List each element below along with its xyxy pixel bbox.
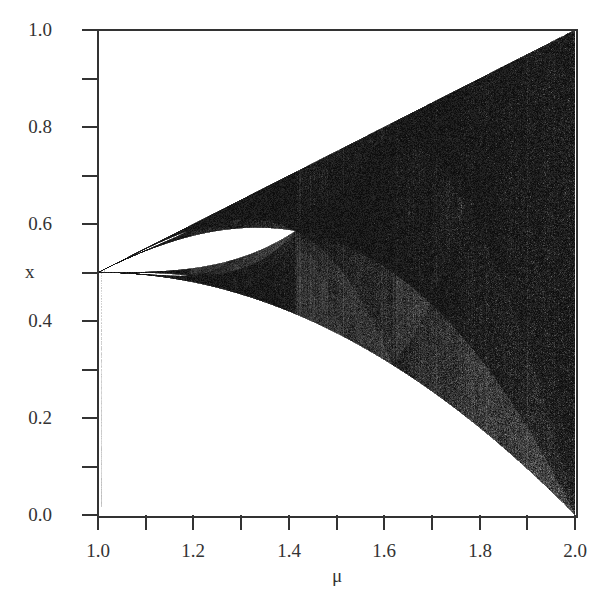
x-tick bbox=[240, 515, 242, 530]
y-tick bbox=[82, 466, 98, 468]
x-tick bbox=[431, 515, 433, 530]
y-tick-label: 0.4 bbox=[2, 311, 52, 331]
y-tick bbox=[82, 29, 98, 31]
y-tick-label: 0.2 bbox=[2, 408, 52, 428]
x-tick bbox=[479, 515, 481, 530]
y-tick bbox=[82, 514, 98, 516]
y-tick-label: 0.6 bbox=[2, 214, 52, 234]
x-tick bbox=[192, 515, 194, 530]
y-tick bbox=[82, 223, 98, 225]
x-tick-label: 1.2 bbox=[168, 541, 218, 561]
y-tick-label: 1.0 bbox=[2, 20, 52, 40]
density-plot-area bbox=[98, 30, 575, 515]
x-tick-label: 1.8 bbox=[455, 541, 505, 561]
x-tick bbox=[526, 515, 528, 530]
chart: 1.0 0.8 0.6 0.4 0.2 0.0 1.0 1.2 1.4 1.6 … bbox=[0, 0, 605, 599]
y-axis-title: x bbox=[25, 262, 35, 282]
x-tick bbox=[288, 515, 290, 530]
y-tick-label: 0.0 bbox=[2, 505, 52, 525]
y-tick bbox=[82, 126, 98, 128]
y-tick bbox=[82, 78, 98, 80]
x-tick-label: 1.4 bbox=[264, 541, 314, 561]
x-tick bbox=[574, 515, 576, 530]
x-tick bbox=[97, 515, 99, 530]
x-tick bbox=[145, 515, 147, 530]
y-tick bbox=[82, 175, 98, 177]
y-tick bbox=[82, 320, 98, 322]
y-tick bbox=[82, 417, 98, 419]
y-tick-label: 0.8 bbox=[2, 117, 52, 137]
x-axis-title: μ bbox=[332, 566, 342, 586]
y-tick bbox=[82, 369, 98, 371]
x-tick bbox=[336, 515, 338, 530]
x-tick-label: 2.0 bbox=[550, 541, 600, 561]
x-tick bbox=[383, 515, 385, 530]
x-tick-label: 1.6 bbox=[359, 541, 409, 561]
x-tick-label: 1.0 bbox=[73, 541, 123, 561]
y-tick bbox=[82, 272, 98, 274]
